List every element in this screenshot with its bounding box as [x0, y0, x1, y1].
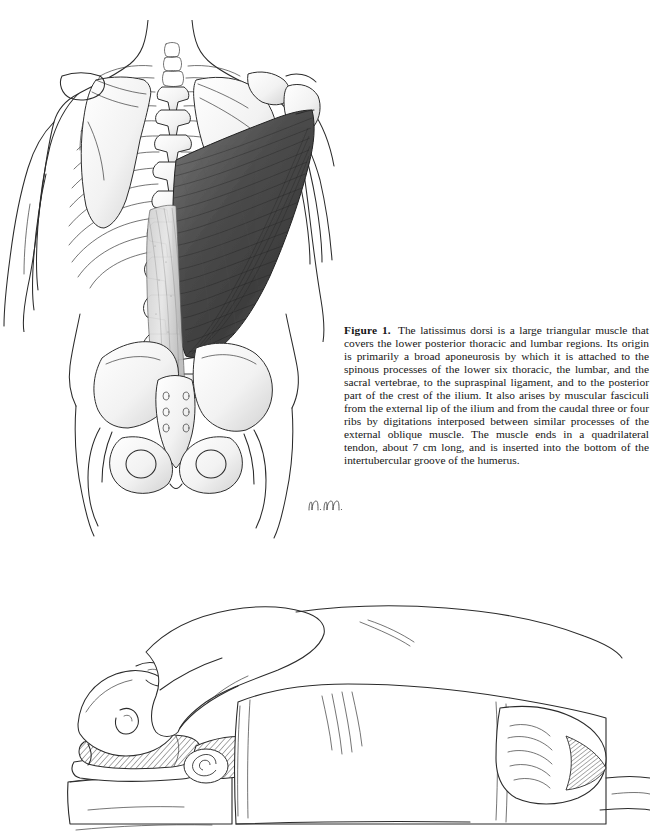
- table-edge-right: [600, 777, 650, 811]
- figure-caption: Figure 1.The latissimus dorsi is a large…: [344, 324, 649, 467]
- figure-caption-text: The latissimus dorsi is a large triangul…: [344, 324, 649, 466]
- page-canvas: Figure 1.The latissimus dorsi is a large…: [0, 0, 650, 831]
- artist-signature: [306, 492, 346, 518]
- figure-anatomy-illustration: [0, 14, 345, 539]
- figure-label: Figure 1.: [344, 324, 391, 336]
- figure-positioning-illustration: [0, 586, 650, 831]
- patient-torso-contour: [296, 606, 622, 658]
